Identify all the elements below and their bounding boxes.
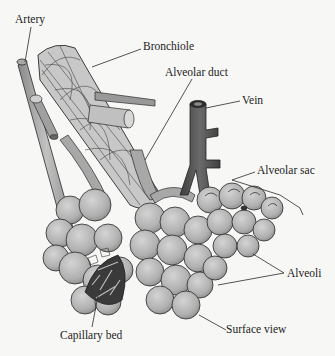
middle-alveoli-cluster <box>130 203 213 319</box>
label-alveoli: Alveoli <box>287 267 322 279</box>
label-capillary-bed: Capillary bed <box>60 329 122 341</box>
alveoli-diagram: Artery Bronchiole Alveolar duct Vein Alv… <box>0 0 335 356</box>
label-alveolar-sac: Alveolar sac <box>257 164 315 176</box>
label-bronchiole: Bronchiole <box>143 40 194 52</box>
label-alveolar-duct: Alveolar duct <box>165 66 228 78</box>
vein-shape <box>180 101 220 196</box>
label-vein: Vein <box>242 94 263 106</box>
label-surface-view: Surface view <box>226 323 286 335</box>
label-artery: Artery <box>15 13 45 25</box>
anatomy-illustration <box>0 0 335 356</box>
